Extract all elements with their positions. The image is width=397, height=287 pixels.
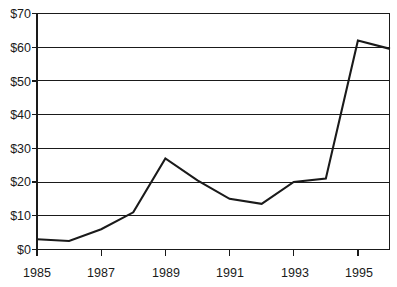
x-tick-label-1993: 1993 [281, 266, 309, 280]
y-tick-label-30: $30 [10, 142, 31, 156]
y-tick-label-0: $0 [17, 243, 31, 257]
x-tick-label-1995: 1995 [345, 266, 373, 280]
y-tick-label-40: $40 [10, 108, 31, 122]
x-tick-label-1991: 1991 [216, 266, 244, 280]
y-tick-label-10: $10 [10, 209, 31, 223]
chart-canvas: $70 $60 $50 $40 $30 $20 $10 $0 1985 1987… [0, 0, 397, 287]
x-tick-label-1987: 1987 [87, 266, 115, 280]
chart-background [0, 0, 397, 287]
y-tick-label-50: $50 [10, 75, 31, 89]
y-tick-label-70: $70 [10, 7, 31, 21]
x-tick-label-1985: 1985 [23, 266, 51, 280]
line-chart: $70 $60 $50 $40 $30 $20 $10 $0 1985 1987… [0, 0, 397, 287]
y-tick-label-20: $20 [10, 175, 31, 189]
x-tick-label-1989: 1989 [152, 266, 180, 280]
y-tick-label-60: $60 [10, 41, 31, 55]
